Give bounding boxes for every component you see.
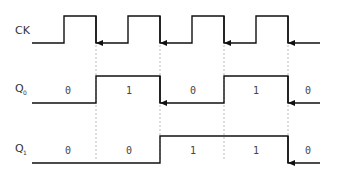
svg-text:0: 0 <box>305 145 311 156</box>
svg-text:1: 1 <box>126 85 132 96</box>
svg-text:1: 1 <box>253 145 259 156</box>
q1-waveform <box>32 136 320 163</box>
svg-text:0: 0 <box>126 145 132 156</box>
q0-values: 0 1 0 1 0 <box>65 85 311 96</box>
q0-waveform <box>32 76 320 103</box>
svg-text:1: 1 <box>23 149 27 156</box>
q1-values: 0 0 1 1 0 <box>65 145 311 156</box>
svg-text:0: 0 <box>305 85 311 96</box>
svg-text:0: 0 <box>65 85 71 96</box>
svg-text:0: 0 <box>65 145 71 156</box>
svg-text:1: 1 <box>190 145 196 156</box>
svg-text:0: 0 <box>190 85 196 96</box>
svg-text:1: 1 <box>253 85 259 96</box>
svg-text:0: 0 <box>23 89 27 96</box>
ck-label: CK <box>15 24 31 37</box>
q1-label: Q 1 <box>15 142 27 156</box>
ck-waveform <box>32 16 320 43</box>
timing-diagram: CK Q 0 0 1 0 1 0 Q 1 0 0 1 1 0 <box>0 0 339 171</box>
q0-label: Q 0 <box>15 82 27 96</box>
